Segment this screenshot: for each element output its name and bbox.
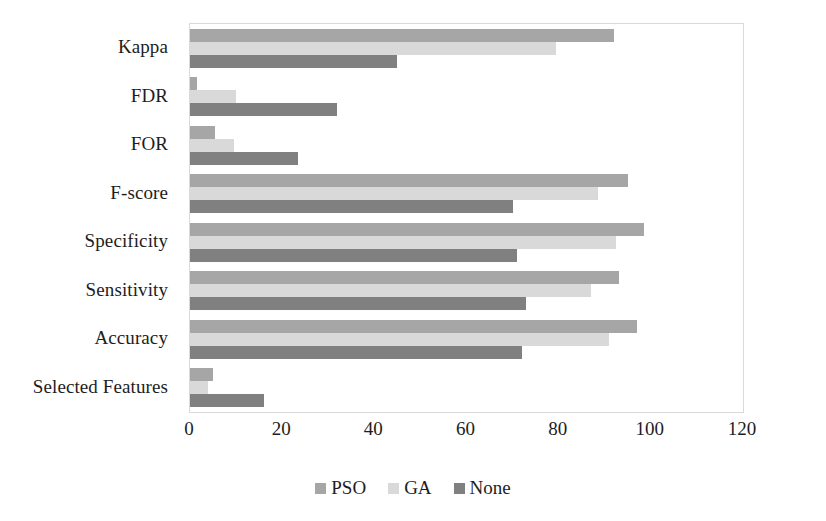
x-tick-label-60: 60	[456, 418, 475, 440]
category-label-fdr: FDR	[131, 86, 168, 105]
bar-f-score-none	[190, 200, 513, 213]
category-axis-labels: KappaFDRFORF-scoreSpecificitySensitivity…	[0, 23, 180, 413]
bar-sensitivity-pso	[190, 271, 619, 284]
category-label-kappa: Kappa	[118, 37, 168, 56]
x-tick-label-120: 120	[728, 418, 757, 440]
bar-accuracy-none	[190, 346, 522, 359]
bar-for-pso	[190, 126, 215, 139]
bar-selected-features-pso	[190, 368, 213, 381]
bar-chart: KappaFDRFORF-scoreSpecificitySensitivity…	[0, 0, 826, 521]
bar-kappa-none	[190, 55, 397, 68]
x-tick-label-20: 20	[272, 418, 291, 440]
legend-swatch-pso-icon	[315, 483, 326, 494]
bar-specificity-none	[190, 249, 517, 262]
bar-selected-features-ga	[190, 381, 208, 394]
x-tick-label-40: 40	[364, 418, 383, 440]
legend-swatch-none-icon	[454, 483, 465, 494]
x-tick-label-100: 100	[636, 418, 665, 440]
bar-specificity-ga	[190, 236, 616, 249]
bar-sensitivity-ga	[190, 284, 591, 297]
x-tick-label-80: 80	[548, 418, 567, 440]
legend-item-ga[interactable]: GA	[388, 478, 431, 497]
bar-accuracy-pso	[190, 320, 637, 333]
category-label-sensitivity: Sensitivity	[86, 280, 168, 299]
category-label-accuracy: Accuracy	[94, 328, 168, 347]
bar-fdr-pso	[190, 77, 197, 90]
legend-item-none[interactable]: None	[454, 478, 511, 497]
bar-series-container	[190, 24, 743, 412]
bar-kappa-ga	[190, 42, 556, 55]
bar-f-score-pso	[190, 174, 628, 187]
value-axis-labels: 020406080100120	[189, 418, 744, 446]
bar-fdr-ga	[190, 90, 236, 103]
category-label-for: FOR	[131, 134, 168, 153]
bar-f-score-ga	[190, 187, 598, 200]
legend-label-pso: PSO	[331, 478, 366, 497]
legend-swatch-ga-icon	[388, 483, 399, 494]
category-label-specificity: Specificity	[85, 231, 168, 250]
legend-label-ga: GA	[404, 478, 431, 497]
bar-fdr-none	[190, 103, 337, 116]
bar-for-none	[190, 152, 298, 165]
x-tick-label-0: 0	[184, 418, 194, 440]
bar-specificity-pso	[190, 223, 644, 236]
chart-legend: PSOGANone	[0, 478, 826, 497]
category-label-selected-features: Selected Features	[33, 377, 168, 396]
legend-item-pso[interactable]: PSO	[315, 478, 366, 497]
bar-sensitivity-none	[190, 297, 526, 310]
bar-kappa-pso	[190, 29, 614, 42]
bar-selected-features-none	[190, 394, 264, 407]
bar-accuracy-ga	[190, 333, 609, 346]
legend-label-none: None	[470, 478, 511, 497]
bar-for-ga	[190, 139, 234, 152]
category-label-f-score: F-score	[110, 183, 168, 202]
